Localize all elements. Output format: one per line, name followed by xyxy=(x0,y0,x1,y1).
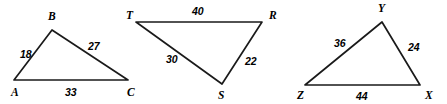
triangle-yzx-outline xyxy=(305,22,420,85)
side-ca-length-label: 33 xyxy=(65,86,77,98)
side-ab-length-label: 18 xyxy=(20,48,32,60)
vertex-label-y: Y xyxy=(378,2,386,14)
side-yz-length-label: 36 xyxy=(334,37,346,49)
vertex-label-s: S xyxy=(218,89,224,101)
side-ts-length-label: 30 xyxy=(166,53,178,65)
vertex-label-t: T xyxy=(126,9,134,21)
triangle-yzx: YZX362444 xyxy=(296,2,433,102)
triangle-trs-outline xyxy=(136,22,262,84)
vertex-label-c: C xyxy=(127,86,135,98)
side-zx-length-label: 44 xyxy=(355,90,368,102)
vertex-label-z: Z xyxy=(296,89,304,101)
side-yx-length-label: 24 xyxy=(407,41,420,53)
geometry-figure: ABC182733TRS403022YZX362444 xyxy=(0,0,447,104)
vertex-label-r: R xyxy=(268,9,277,21)
vertex-label-x: X xyxy=(424,89,433,101)
side-tr-length-label: 40 xyxy=(191,5,204,17)
side-rs-length-label: 22 xyxy=(244,55,257,67)
side-bc-length-label: 27 xyxy=(87,40,101,52)
vertex-label-b: B xyxy=(47,10,56,22)
triangle-abc: ABC182733 xyxy=(10,10,135,98)
triangle-trs: TRS403022 xyxy=(126,5,277,101)
vertex-label-a: A xyxy=(10,86,19,98)
triangles-canvas: ABC182733TRS403022YZX362444 xyxy=(0,0,447,104)
